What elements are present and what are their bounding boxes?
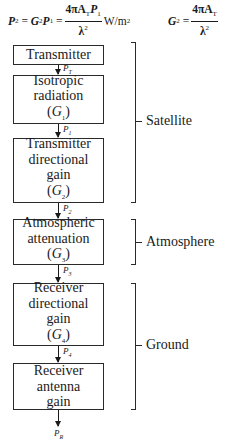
arrow-down-icon bbox=[58, 203, 59, 218]
formula-text: 4πA bbox=[192, 3, 212, 15]
signal-subscript: 1 bbox=[69, 130, 72, 136]
group-label: Satellite bbox=[146, 113, 192, 129]
gain-subscript: 2 bbox=[62, 192, 66, 200]
bracket-tick bbox=[136, 242, 142, 243]
fraction: 4πAT λ2 bbox=[191, 3, 218, 38]
signal-label-pt: PT bbox=[63, 63, 72, 75]
power-density-formula: P2 = G2P1 = 4πATP1 λ2 W/m2 bbox=[8, 3, 130, 38]
signal-label-p1: P1 bbox=[63, 124, 72, 136]
numerator: 4πATP1 bbox=[65, 3, 102, 22]
group-label: Ground bbox=[146, 337, 189, 353]
signal-subscript: 4 bbox=[69, 352, 72, 358]
isotropic-radiation-block: Isotropic radiation (G1) bbox=[13, 75, 104, 124]
formula-symbol: P bbox=[43, 15, 50, 27]
signal-label-p3: P3 bbox=[63, 265, 72, 277]
block-label: directional bbox=[29, 152, 89, 168]
arrow-down-icon bbox=[58, 65, 59, 74]
gain-letter: G bbox=[52, 183, 62, 198]
ground-group-label: Ground bbox=[136, 337, 189, 353]
numerator: 4πAT bbox=[191, 3, 218, 22]
block-label: gain bbox=[46, 167, 70, 183]
transmitter-block: Transmitter bbox=[13, 45, 104, 65]
signal-subscript: R bbox=[60, 434, 64, 440]
equals-sign: = bbox=[53, 15, 62, 27]
formula-symbol: G bbox=[31, 15, 39, 27]
transmitter-directional-gain-block: Transmitter directional gain (G2) bbox=[13, 138, 104, 203]
bracket-tick bbox=[136, 345, 142, 346]
gain-letter: G bbox=[52, 246, 62, 261]
block-label: gain bbox=[46, 394, 70, 410]
gain-letter: G bbox=[52, 327, 62, 342]
unit-label: W/m bbox=[104, 15, 127, 27]
formula-superscript: 2 bbox=[206, 24, 210, 32]
block-label: Transmitter bbox=[26, 47, 91, 63]
signal-label-p2: P2 bbox=[63, 203, 72, 215]
signal-subscript: 2 bbox=[69, 209, 72, 215]
atmospheric-attenuation-block: Atmospheric attenuation (G3) bbox=[13, 219, 104, 265]
arrow-down-icon bbox=[58, 124, 59, 137]
fraction: 4πATP1 λ2 bbox=[65, 3, 102, 38]
formula-symbol: P bbox=[8, 15, 15, 27]
gain-subscript: 1 bbox=[62, 114, 66, 122]
block-label: antenna bbox=[37, 379, 81, 395]
gain-letter: G bbox=[52, 104, 62, 119]
formula-superscript: 2 bbox=[84, 24, 88, 32]
signal-label-pr: PR bbox=[54, 428, 63, 440]
gain-formula: G2 = 4πAT λ2 bbox=[168, 3, 220, 38]
gain-subscript: 4 bbox=[62, 336, 66, 344]
receiver-directional-gain-block: Receiver directional gain (G4) bbox=[13, 283, 104, 346]
satellite-group-label: Satellite bbox=[136, 113, 192, 129]
receiver-antenna-gain-block: Receiver antenna gain bbox=[13, 363, 104, 410]
formula-text: 4πA bbox=[66, 3, 86, 15]
group-label: Atmosphere bbox=[146, 234, 214, 250]
block-label: directional bbox=[29, 296, 89, 312]
signal-subscript: T bbox=[69, 69, 72, 75]
formula-symbol: G bbox=[168, 15, 176, 27]
arrow-down-icon bbox=[58, 410, 59, 426]
atmosphere-group-label: Atmosphere bbox=[136, 234, 214, 250]
bracket-tick bbox=[136, 121, 142, 122]
formula-subscript: 1 bbox=[97, 10, 101, 18]
block-label: Transmitter bbox=[26, 136, 91, 152]
gain-subscript: 3 bbox=[62, 256, 66, 264]
block-label: radiation bbox=[34, 88, 84, 104]
signal-subscript: 3 bbox=[69, 271, 72, 277]
denominator: λ2 bbox=[200, 22, 209, 38]
formula-subscript: T bbox=[213, 10, 217, 18]
block-label: gain bbox=[46, 311, 70, 327]
arrow-down-icon bbox=[58, 346, 59, 362]
arrow-down-icon bbox=[58, 265, 59, 282]
block-label: Receiver bbox=[34, 363, 84, 379]
block-label: attenuation bbox=[27, 231, 89, 247]
block-label: Isotropic bbox=[34, 73, 84, 89]
signal-label-p4: P4 bbox=[63, 346, 72, 358]
gain-symbol: (G2) bbox=[47, 183, 70, 205]
equals-sign: = bbox=[19, 15, 31, 27]
equals-sign: = bbox=[180, 15, 189, 27]
gain-symbol: (G1) bbox=[47, 104, 70, 126]
denominator: λ2 bbox=[79, 22, 88, 38]
formula-superscript: 2 bbox=[127, 17, 131, 25]
